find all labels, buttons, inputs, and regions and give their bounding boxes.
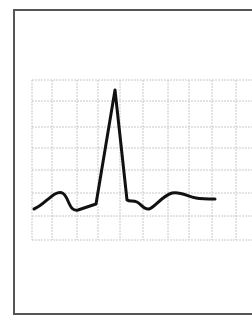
background	[0, 0, 252, 321]
ecg-diagram	[0, 0, 252, 321]
